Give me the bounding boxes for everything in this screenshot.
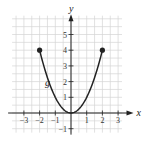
x-tick-label: −1 bbox=[51, 116, 60, 125]
y-axis-label: y bbox=[68, 3, 74, 14]
endpoint-dot bbox=[37, 48, 42, 53]
y-tick-label: 5 bbox=[63, 31, 67, 40]
x-tick-label: −2 bbox=[35, 116, 44, 125]
x-axis-arrow-icon bbox=[127, 111, 134, 116]
endpoint-dot bbox=[100, 48, 105, 53]
x-tick-label: 3 bbox=[116, 116, 120, 125]
graph-canvas: −3−2−1123−112345xyg bbox=[0, 0, 144, 147]
y-tick-label: 1 bbox=[63, 93, 67, 102]
x-tick-label: 2 bbox=[100, 116, 104, 125]
y-tick-label: 4 bbox=[63, 46, 67, 55]
y-axis-arrow-icon bbox=[69, 14, 74, 21]
y-tick-label: −1 bbox=[58, 125, 67, 134]
x-tick-label: −3 bbox=[20, 116, 29, 125]
x-axis-label: x bbox=[136, 107, 142, 118]
y-tick-label: 2 bbox=[63, 78, 67, 87]
x-tick-label: 1 bbox=[85, 116, 89, 125]
function-label: g bbox=[45, 77, 50, 88]
y-tick-label: 3 bbox=[63, 62, 67, 71]
